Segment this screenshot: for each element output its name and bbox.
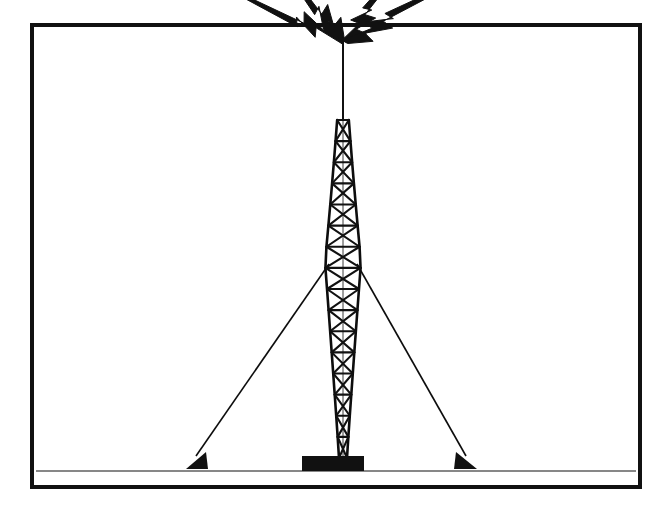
paper-background xyxy=(0,0,668,506)
radio-tower-illustration xyxy=(0,0,668,506)
illustration-artboard: Broadcast Radio Tower Illustration xyxy=(0,0,668,506)
tower-foundation-pad xyxy=(302,456,364,471)
